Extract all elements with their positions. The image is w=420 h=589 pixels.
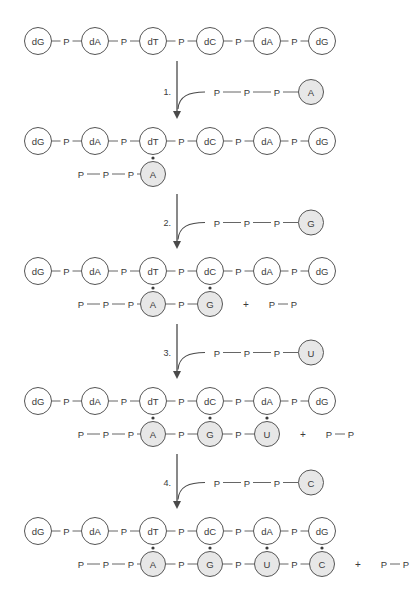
pyrophosphate-byproduct: +PP xyxy=(355,559,409,570)
rna-prefix-phosphate-1: P xyxy=(103,299,109,310)
dna-base-label: dC xyxy=(204,396,216,407)
dna-phosphate-label: P xyxy=(63,526,69,537)
dna-base-label: dA xyxy=(261,136,273,147)
dna-template-strand: dGPdAPdTPdCPdAPdG xyxy=(25,388,336,415)
dna-phosphate-label: P xyxy=(121,396,127,407)
dna-nucleotide-dG-5: dG xyxy=(309,518,336,545)
dna-phosphate-label: P xyxy=(291,266,297,277)
rna-nucleotide-A-0: A xyxy=(141,552,166,577)
step-number-label: 2. xyxy=(163,218,171,228)
incoming-ntp-U: PPPU xyxy=(214,340,324,365)
dna-nucleotide-dA-4: dA xyxy=(254,388,281,415)
ntp-phosphate-1: P xyxy=(244,478,250,489)
dna-nucleotide-dA-1: dA xyxy=(82,128,109,155)
dna-nucleotide-dT-2: dT xyxy=(140,128,167,155)
substrate-feed-curve xyxy=(178,483,205,500)
rna-prefix-phosphate-2: P xyxy=(128,559,134,570)
rna-prefix-phosphate-0: P xyxy=(78,429,84,440)
dna-base-label: dG xyxy=(32,136,45,147)
dna-base-label: dG xyxy=(316,136,329,147)
dna-base-label: dA xyxy=(261,266,273,277)
substrate-feed-curve xyxy=(178,353,205,370)
rna-base-label: U xyxy=(264,559,271,570)
dna-nucleotide-dA-4: dA xyxy=(254,258,281,285)
dna-phosphate-label: P xyxy=(63,396,69,407)
ntp-phosphate-2: P xyxy=(274,478,280,489)
byproduct-phosphate-0: P xyxy=(326,429,332,440)
dna-nucleotide-dG-5: dG xyxy=(309,388,336,415)
dna-phosphate-label: P xyxy=(291,36,297,47)
rna-base-label: G xyxy=(206,429,213,440)
dna-nucleotide-dA-4: dA xyxy=(254,128,281,155)
rna-nucleotide-G-1: G xyxy=(198,292,223,317)
reaction-arrow-head xyxy=(173,371,181,379)
dna-base-label: dT xyxy=(147,526,158,537)
dna-nucleotide-dC-3: dC xyxy=(197,388,224,415)
dna-nucleotide-dA-4: dA xyxy=(254,28,281,55)
dna-phosphate-label: P xyxy=(63,266,69,277)
pyrophosphate-byproduct: +PP xyxy=(243,299,297,310)
rna-base-label: C xyxy=(319,559,326,570)
step-number-label: 3. xyxy=(163,348,171,358)
rna-nucleotide-A-0: A xyxy=(141,162,166,187)
byproduct-plus-sign: + xyxy=(355,559,361,570)
dna-nucleotide-dA-1: dA xyxy=(82,388,109,415)
ntp-base-C: C xyxy=(299,470,324,495)
dna-base-label: dG xyxy=(32,266,45,277)
dna-nucleotide-dC-3: dC xyxy=(197,258,224,285)
dna-base-label: dT xyxy=(147,396,158,407)
rna-nucleotide-G-1: G xyxy=(198,552,223,577)
byproduct-plus-sign: + xyxy=(243,299,249,310)
rna-base-label: A xyxy=(150,559,157,570)
step-number-label: 1. xyxy=(163,87,171,97)
dna-base-label: dA xyxy=(89,136,101,147)
dna-nucleotide-dA-1: dA xyxy=(82,28,109,55)
base-pair-dot xyxy=(208,546,211,549)
reaction-step-1: 1.PPPA xyxy=(163,61,323,119)
dna-base-label: dG xyxy=(32,36,45,47)
diagram-canvas: dGPdAPdTPdCPdAPdGdGPdAPdTPdCPdAPdGPPPAdG… xyxy=(0,0,420,589)
dna-base-label: dA xyxy=(89,36,101,47)
dna-phosphate-label: P xyxy=(121,266,127,277)
ntp-base-G: G xyxy=(299,210,324,235)
rna-nucleotide-G-1: G xyxy=(198,422,223,447)
dna-nucleotide-dG-5: dG xyxy=(309,258,336,285)
dna-phosphate-label: P xyxy=(63,136,69,147)
dna-template-strand: dGPdAPdTPdCPdAPdG xyxy=(25,518,336,545)
rna-nucleotide-U-2: U xyxy=(255,552,280,577)
rna-nucleotide-A-0: A xyxy=(141,422,166,447)
ntp-phosphate-0: P xyxy=(214,87,220,98)
rna-nascent-strand: PPPAPG xyxy=(78,286,223,316)
dna-base-label: dG xyxy=(32,526,45,537)
rna-nascent-strand: PPPAPGPUPC xyxy=(78,546,335,576)
dna-phosphate-label: P xyxy=(178,136,184,147)
strand-block-0: dGPdAPdTPdCPdAPdG xyxy=(25,28,336,55)
dna-phosphate-label: P xyxy=(235,396,241,407)
dna-base-label: dG xyxy=(316,266,329,277)
ntp-phosphate-1: P xyxy=(244,218,250,229)
rna-base-label: G xyxy=(206,299,213,310)
dna-base-label: dC xyxy=(204,526,216,537)
dna-nucleotide-dT-2: dT xyxy=(140,388,167,415)
rna-prefix-phosphate-2: P xyxy=(128,299,134,310)
rna-nucleotide-U-2: U xyxy=(255,422,280,447)
base-pair-dot xyxy=(151,156,154,159)
rna-base-label: A xyxy=(308,87,315,98)
rna-synthesis-diagram: dGPdAPdTPdCPdAPdGdGPdAPdTPdCPdAPdGPPPAdG… xyxy=(0,0,420,589)
dna-base-label: dG xyxy=(316,36,329,47)
dna-nucleotide-dA-1: dA xyxy=(82,518,109,545)
pyrophosphate-byproduct: +PP xyxy=(300,429,354,440)
rna-prefix-phosphate-1: P xyxy=(103,169,109,180)
base-pair-dot xyxy=(208,286,211,289)
dna-phosphate-label: P xyxy=(178,266,184,277)
dna-nucleotide-dG-0: dG xyxy=(25,388,52,415)
ntp-base-A: A xyxy=(299,80,324,105)
byproduct-phosphate-0: P xyxy=(381,559,387,570)
reaction-step-4: 4.PPPC xyxy=(163,454,323,509)
ntp-phosphate-1: P xyxy=(244,87,250,98)
reaction-arrow-head xyxy=(173,241,181,249)
dna-template-strand: dGPdAPdTPdCPdAPdG xyxy=(25,128,336,155)
dna-base-label: dT xyxy=(147,266,158,277)
incoming-ntp-A: PPPA xyxy=(214,80,324,105)
rna-base-label: U xyxy=(264,429,271,440)
